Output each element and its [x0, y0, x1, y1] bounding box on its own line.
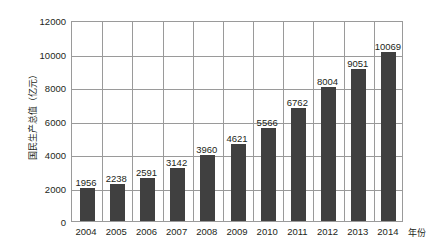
bar-data-label: 3960: [196, 144, 217, 155]
x-axis-tick-label: 2012: [317, 226, 338, 237]
bar: [170, 168, 185, 221]
y-axis-tick-label: 8000: [20, 83, 66, 94]
plot-area: 1956223825913142396046215566676280049051…: [71, 21, 403, 222]
y-axis-tick-label: 2000: [20, 183, 66, 194]
bar: [381, 52, 396, 221]
bar-data-label: 8004: [317, 76, 338, 87]
y-axis-tick-label: 10000: [20, 49, 66, 60]
x-axis-tick-label: 2010: [257, 226, 278, 237]
bar-data-label: 2238: [106, 173, 127, 184]
bar-data-label: 9051: [347, 58, 368, 69]
x-axis-tick-label: 2006: [136, 226, 157, 237]
bar: [261, 128, 276, 221]
bar-data-label: 2591: [136, 167, 157, 178]
y-axis-tick-label: 12000: [20, 16, 66, 27]
x-axis-tick-label: 2011: [287, 226, 307, 237]
bar-data-label: 5566: [257, 117, 278, 128]
bar-data-label: 6762: [287, 97, 308, 108]
x-axis-tick-label: 2004: [76, 226, 97, 237]
x-axis-tick-labels: 2004200520062007200820092010201120122013…: [0, 226, 432, 246]
bar-chart: 国民生产总值（亿元） 020004000600080001000012000 1…: [0, 0, 432, 251]
bar-data-label: 3142: [166, 157, 187, 168]
bar-data-label: 4621: [226, 133, 247, 144]
y-axis-tick-label: 6000: [20, 116, 66, 127]
bar: [140, 178, 155, 221]
x-axis-tick-label: 2005: [106, 226, 127, 237]
bars-layer: 1956223825913142396046215566676280049051…: [72, 22, 402, 221]
x-axis-tick-label: 2014: [377, 226, 398, 237]
bar: [80, 188, 95, 221]
bar: [321, 87, 336, 221]
bar: [200, 155, 215, 221]
x-axis-title: 年份: [408, 226, 426, 239]
bar: [110, 184, 125, 221]
x-axis-tick-label: 2008: [196, 226, 217, 237]
y-axis-tick-label: 4000: [20, 150, 66, 161]
bar: [291, 108, 306, 221]
bar: [231, 144, 246, 221]
bar: [351, 69, 366, 221]
bar-data-label: 1956: [76, 177, 97, 188]
x-axis-tick-label: 2007: [166, 226, 187, 237]
y-axis-tick-labels: 020004000600080001000012000: [20, 0, 66, 251]
x-axis-tick-label: 2009: [226, 226, 247, 237]
bar-data-label: 10069: [375, 41, 401, 52]
x-axis-tick-label: 2013: [347, 226, 368, 237]
